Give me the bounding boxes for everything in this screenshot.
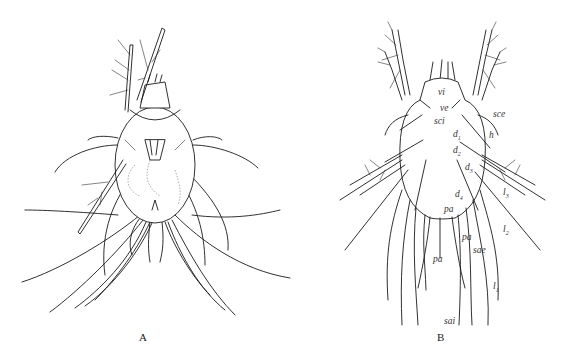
seta-label-sae: sae — [473, 246, 486, 256]
seta-label-l2-sub: 2 — [506, 230, 509, 236]
seta-label-d4-sub: 4 — [460, 195, 463, 201]
seta-label-l1: l1 — [493, 282, 499, 293]
seta-label-l3-sub: 3 — [506, 193, 509, 199]
seta-label-vi: vi — [438, 88, 445, 98]
seta-label-d3-sub: 3 — [470, 168, 473, 174]
seta-label-pa-middle: pa — [462, 233, 472, 243]
seta-label-ve: ve — [440, 104, 448, 114]
seta-label-d2: d2 — [453, 146, 461, 157]
panel-b-dorsal-view: vi ve sci sce d1 h d2 d3 l3 d4 pa pa l2 … — [330, 0, 568, 357]
seta-label-d4: d4 — [455, 190, 463, 201]
seta-label-sai: sai — [444, 317, 455, 327]
seta-label-d1: d1 — [453, 130, 461, 141]
seta-label-d2-sub: 2 — [458, 151, 461, 157]
seta-label-sci: sci — [434, 117, 445, 127]
panel-label-a: A — [139, 331, 147, 343]
seta-label-sce: sce — [493, 110, 505, 120]
seta-label-pa-lower: pa — [433, 255, 443, 265]
seta-label-l3: l3 — [503, 188, 509, 199]
seta-label-d3: d3 — [465, 163, 473, 174]
seta-label-l1-sub: 1 — [496, 287, 499, 293]
panel-label-b: B — [437, 331, 444, 343]
mite-ventral-illustration — [0, 0, 300, 357]
mite-dorsal-illustration — [330, 0, 568, 357]
panel-a-ventral-view: A — [0, 0, 300, 357]
seta-label-d1-sub: 1 — [458, 135, 461, 141]
seta-label-l2: l2 — [503, 225, 509, 236]
seta-label-h: h — [489, 131, 494, 141]
seta-label-pa-upper: pa — [444, 205, 454, 215]
